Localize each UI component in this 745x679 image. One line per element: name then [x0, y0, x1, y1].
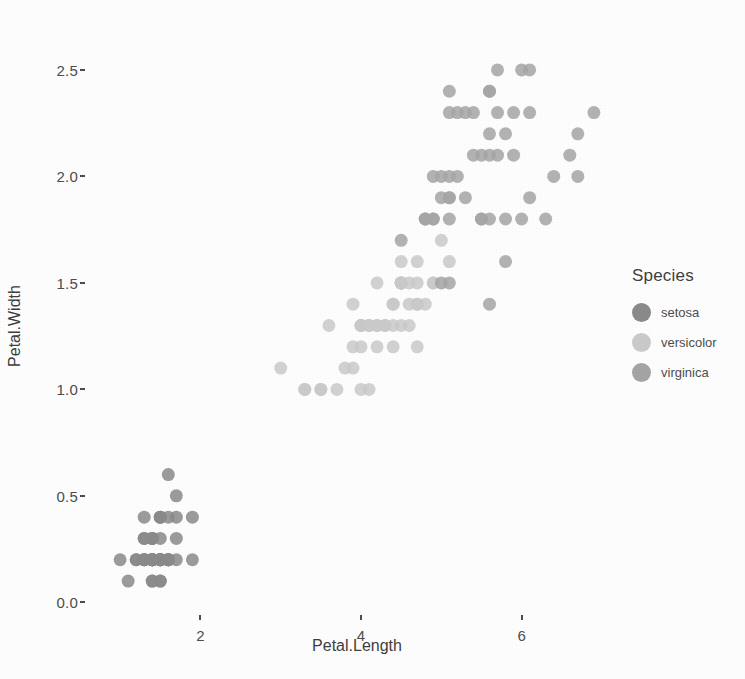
y-tick-mark [80, 601, 85, 603]
data-point [346, 298, 359, 311]
data-point [122, 575, 135, 588]
y-tick-label: 1.0 [57, 381, 78, 398]
data-point [363, 383, 376, 396]
data-point [395, 234, 408, 247]
data-point [451, 106, 464, 119]
legend-item-label: setosa [661, 305, 699, 320]
legend-item-versicolor[interactable]: versicolor [632, 327, 742, 357]
data-point [419, 213, 432, 226]
y-tick-mark [80, 282, 85, 284]
data-point [411, 276, 424, 289]
data-point [539, 213, 552, 226]
data-point [403, 319, 416, 332]
series-virginica [395, 63, 601, 310]
data-point [186, 511, 199, 524]
data-point [435, 191, 448, 204]
data-point [146, 575, 159, 588]
legend-key-circle-icon [632, 363, 651, 382]
data-point [475, 213, 488, 226]
y-axis-title: Petal.Width [0, 38, 30, 613]
data-point [483, 127, 496, 140]
data-point [491, 63, 504, 76]
data-point [499, 213, 512, 226]
data-point [443, 85, 456, 98]
data-point [507, 106, 520, 119]
data-point [507, 149, 520, 162]
data-point [170, 489, 183, 502]
data-point [371, 340, 384, 353]
legend: Species setosaversicolorvirginica [632, 266, 742, 387]
data-point [443, 276, 456, 289]
legend-item-setosa[interactable]: setosa [632, 297, 742, 327]
y-axis-title-label: Petal.Width [6, 285, 24, 367]
data-point [523, 63, 536, 76]
data-point [387, 298, 400, 311]
data-point [387, 340, 400, 353]
data-point [587, 106, 600, 119]
y-tick-label: 0.5 [57, 487, 78, 504]
data-point [330, 383, 343, 396]
data-point [467, 106, 480, 119]
data-point [571, 170, 584, 183]
scatter-plot-figure: 0.00.51.01.52.02.5 Petal.Width 246 Petal… [0, 0, 745, 679]
series-versicolor [274, 213, 456, 396]
y-tick-mark [80, 388, 85, 390]
series-setosa [114, 468, 199, 587]
data-point [499, 127, 512, 140]
data-point [459, 191, 472, 204]
data-point [491, 106, 504, 119]
data-point [363, 319, 376, 332]
plot-panel [88, 38, 626, 613]
data-point [563, 149, 576, 162]
x-axis-title-label: Petal.Length [312, 637, 402, 654]
data-point [435, 234, 448, 247]
data-point [451, 170, 464, 183]
data-point [395, 255, 408, 268]
data-point [146, 553, 159, 566]
legend-item-label: virginica [661, 365, 709, 380]
data-point [395, 276, 408, 289]
x-tick-mark [360, 615, 362, 620]
y-tick-label: 0.0 [57, 594, 78, 611]
data-point [483, 149, 496, 162]
data-point [483, 85, 496, 98]
data-points-layer [88, 38, 626, 613]
legend-item-label: versicolor [661, 335, 717, 350]
data-point [499, 255, 512, 268]
legend-item-virginica[interactable]: virginica [632, 357, 742, 387]
data-point [443, 255, 456, 268]
data-point [274, 362, 287, 375]
legend-title: Species [632, 266, 742, 286]
y-tick-label: 2.5 [57, 61, 78, 78]
y-tick-label: 2.0 [57, 168, 78, 185]
data-point [427, 170, 440, 183]
data-point [338, 362, 351, 375]
data-point [411, 255, 424, 268]
data-point [146, 532, 159, 545]
data-point [483, 298, 496, 311]
x-axis-title: Petal.Length [88, 637, 626, 655]
data-point [355, 340, 368, 353]
data-point [379, 319, 392, 332]
data-point [547, 170, 560, 183]
legend-key-circle-icon [632, 303, 651, 322]
data-point [298, 383, 311, 396]
x-tick-mark [199, 615, 201, 620]
data-point [114, 553, 127, 566]
data-point [403, 298, 416, 311]
data-point [186, 553, 199, 566]
data-point [371, 276, 384, 289]
data-point [170, 532, 183, 545]
data-point [467, 149, 480, 162]
data-point [523, 191, 536, 204]
data-point [571, 127, 584, 140]
data-point [419, 298, 432, 311]
y-tick-label: 1.5 [57, 274, 78, 291]
data-point [154, 511, 167, 524]
data-point [411, 340, 424, 353]
x-tick-mark [521, 615, 523, 620]
data-point [314, 383, 327, 396]
y-tick-mark [80, 175, 85, 177]
data-point [322, 319, 335, 332]
data-point [443, 213, 456, 226]
